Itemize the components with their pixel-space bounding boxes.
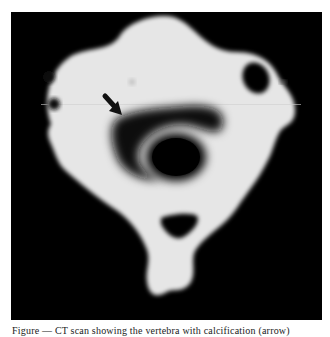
ct-scan-figure	[11, 12, 322, 320]
left-foramen-upper	[43, 71, 55, 83]
scan-line-artifact	[41, 104, 301, 105]
figure-caption: Figure — CT scan showing the vertebra wi…	[12, 325, 324, 337]
left-foramen-lower	[48, 98, 60, 110]
ct-scan-image	[11, 12, 322, 320]
